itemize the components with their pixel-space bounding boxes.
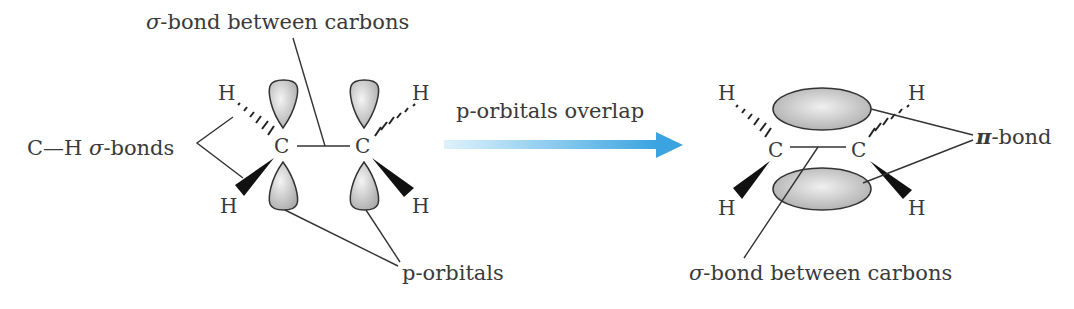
p-orbital-lobe-c2-top [350, 80, 378, 128]
pi-bond-lobe-bottom [773, 168, 871, 210]
hydrogen-top-right: H [412, 81, 429, 105]
hashed-bond-c2-top-right [375, 104, 415, 136]
hashed-bond-c1-top-left [238, 103, 274, 135]
pi-bond-lobe-top [773, 88, 871, 130]
leader-line-ch-bonds [197, 117, 243, 178]
wedge-bond-right-c1-bottom-left [733, 161, 770, 199]
reaction-arrow: p-orbitals overlap [444, 99, 683, 158]
hydrogen-bottom-left-right: H [718, 196, 735, 220]
hydrogen-top-left-right: H [718, 81, 735, 105]
ch-sigma-bonds-label: C—H σ-bonds [27, 136, 174, 160]
hydrogen-top-left: H [218, 81, 235, 105]
ethene-pi-bond-diagram: σ-bond between carbons σ-bond between ca… [0, 0, 1074, 309]
carbon-atom-1-right: C [768, 138, 783, 162]
p-orbital-lobe-c1-bottom [269, 162, 297, 210]
leader-line-p-orbital-c1 [285, 210, 398, 266]
carbon-atom-2-right: C [851, 138, 866, 162]
arrow-label: p-orbitals overlap [456, 99, 644, 123]
hashed-bond-right-c1-top-left [736, 105, 771, 137]
hydrogen-bottom-left: H [220, 194, 237, 218]
right-panel: C C H H H H π-bond [689, 81, 1052, 285]
p-orbitals-label: p-orbitals [402, 261, 504, 285]
pi-bond-label: π-bond [975, 124, 1052, 149]
left-panel: σ-bond between carbons σ-bond between ca… [27, 10, 504, 285]
carbon-atom-1: C [274, 134, 289, 158]
sigma-bond-label-bottom: σ-bond between carbons [689, 261, 952, 285]
hydrogen-top-right-right: H [908, 81, 925, 105]
hydrogen-bottom-right: H [412, 194, 429, 218]
p-orbital-lobe-c1-top [269, 80, 297, 128]
hydrogen-bottom-right-right: H [908, 196, 925, 220]
leader-line-pi-bottom [863, 140, 973, 183]
arrow-head-icon [656, 132, 683, 158]
leader-line-p-orbital-c2 [366, 210, 400, 262]
arrow-shaft [444, 140, 658, 149]
p-orbital-lobe-c2-bottom [350, 162, 378, 210]
carbon-atom-2: C [355, 134, 370, 158]
